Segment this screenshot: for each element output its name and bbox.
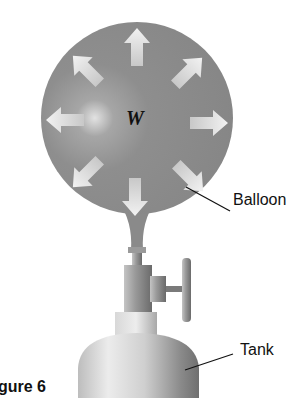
figure-caption: gure 6 bbox=[0, 378, 46, 396]
balloon-label: Balloon bbox=[233, 191, 286, 209]
tank-label: Tank bbox=[240, 341, 274, 359]
valve-nut bbox=[150, 276, 166, 302]
tank-body bbox=[78, 333, 199, 398]
tank-collar bbox=[115, 312, 157, 336]
neck-ring bbox=[128, 247, 146, 253]
valve-body bbox=[124, 265, 152, 313]
valve-stem bbox=[132, 253, 142, 267]
valve-handwheel bbox=[182, 258, 191, 322]
balloon-leader-line bbox=[186, 187, 230, 211]
valve-shaft bbox=[166, 286, 184, 292]
work-symbol-label: W bbox=[126, 107, 144, 130]
